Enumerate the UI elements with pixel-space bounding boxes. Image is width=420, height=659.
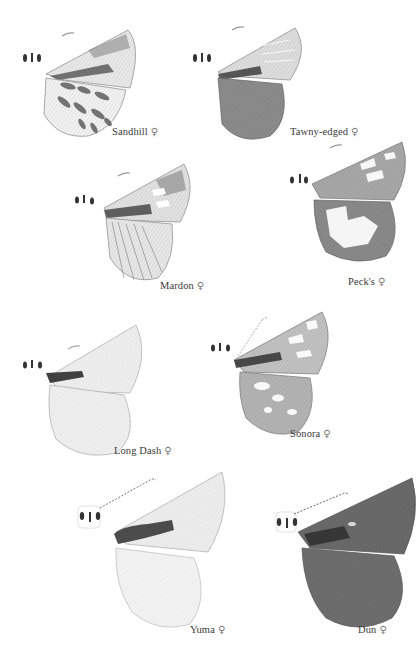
specimen-long-dash: Long Dash♀ <box>20 325 200 460</box>
specimen-caption: Yuma♀ <box>190 624 225 635</box>
antenna-icon <box>62 33 74 36</box>
specimen-yuma: Yuma♀ <box>78 468 248 643</box>
specimen-dun: Dun♀ <box>276 478 420 643</box>
female-symbol-icon: ♀ <box>197 280 204 291</box>
female-symbol-icon: ♀ <box>378 276 385 287</box>
specimen-name: Sandhill <box>112 126 148 137</box>
specimen-caption: Long Dash♀ <box>114 445 172 456</box>
female-symbol-icon: ♀ <box>379 624 386 635</box>
butterfly-illustration-mardon <box>72 160 232 290</box>
specimen-sandhill: Sandhill♀ <box>18 24 178 149</box>
female-symbol-icon: ♀ <box>164 445 171 456</box>
butterfly-illustration-long-dash <box>20 325 200 460</box>
butterfly-illustration-dun <box>276 478 420 643</box>
head-dots-icon <box>23 53 41 62</box>
specimen-caption: Tawny-edged♀ <box>290 126 359 137</box>
female-symbol-icon: ♀ <box>323 428 330 439</box>
specimen-caption: Mardon♀ <box>160 280 204 291</box>
specimen-caption: Peck's♀ <box>348 276 385 287</box>
butterfly-illustration-pecks <box>290 140 420 270</box>
specimen-sonora: Sonora♀ <box>210 308 360 443</box>
specimen-mardon: Mardon♀ <box>72 160 232 290</box>
female-symbol-icon: ♀ <box>218 624 225 635</box>
butterfly-illustration-yuma <box>78 468 248 643</box>
specimen-name: Peck's <box>348 276 375 287</box>
specimen-name: Long Dash <box>114 445 161 456</box>
specimen-caption: Sonora♀ <box>290 428 331 439</box>
female-symbol-icon: ♀ <box>351 126 358 137</box>
specimen-name: Mardon <box>160 280 194 291</box>
specimen-name: Yuma <box>190 624 215 635</box>
butterfly-illustration-sonora <box>210 308 360 443</box>
specimen-caption: Dun♀ <box>358 624 387 635</box>
specimen-name: Sonora <box>290 428 320 439</box>
specimen-tawny-edged: Tawny-edged♀ <box>190 24 380 149</box>
specimen-name: Tawny-edged <box>290 126 348 137</box>
specimen-caption: Sandhill♀ <box>112 126 158 137</box>
female-symbol-icon: ♀ <box>151 126 158 137</box>
specimen-name: Dun <box>358 624 376 635</box>
